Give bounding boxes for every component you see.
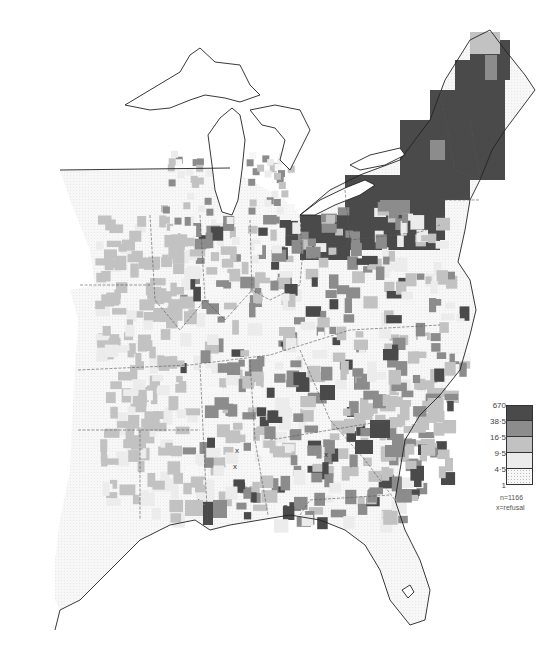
refusal-marker: x bbox=[324, 450, 328, 459]
legend-swatch-class1 bbox=[506, 469, 533, 485]
legend-break: 4·5 bbox=[494, 466, 506, 474]
refusal-legend-label: x=refusal bbox=[496, 504, 525, 511]
legend-swatch-class5 bbox=[506, 405, 533, 421]
lake-superior bbox=[125, 48, 260, 110]
refusal-marker: x bbox=[235, 446, 239, 455]
legend-break: 16·5 bbox=[490, 434, 506, 442]
legend-break: 38·5 bbox=[490, 418, 506, 426]
lake-huron bbox=[250, 105, 310, 170]
legend: 670 38·5 16·5 9·5 4·5 1 n=1166 x=refusal bbox=[476, 402, 548, 514]
legend-swatch-class4 bbox=[506, 421, 533, 437]
sample-size-label: n=1166 bbox=[500, 494, 523, 501]
legend-break: 9·5 bbox=[494, 450, 506, 458]
refusal-marker: x bbox=[233, 462, 237, 471]
legend-swatch-class2 bbox=[506, 453, 533, 469]
legend-break: 670 bbox=[493, 402, 506, 410]
legend-swatch-class3 bbox=[506, 437, 533, 453]
choropleth-map: x x x bbox=[0, 0, 548, 672]
